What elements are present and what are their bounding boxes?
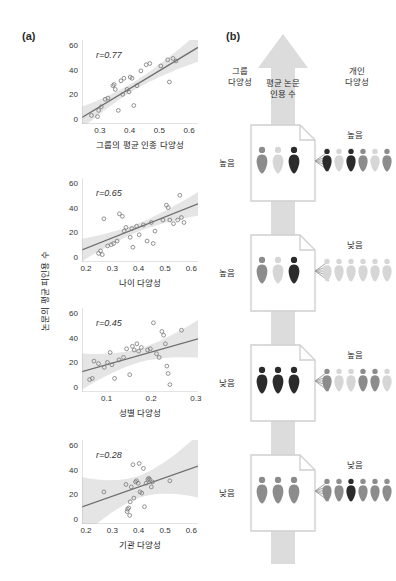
person-icon xyxy=(358,368,368,392)
y-tick-label: 20 xyxy=(69,490,78,499)
person-icon xyxy=(256,146,268,174)
figure-root: (a) 논문의 평균 피인용 수 02040600.30.40.50.6그룹의 … xyxy=(0,0,396,581)
data-point xyxy=(142,467,146,471)
y-tick-label: 60 xyxy=(69,178,78,187)
data-point xyxy=(166,372,170,376)
x-tick-label: 0.2 xyxy=(80,264,91,273)
y-tick-label: 40 xyxy=(69,65,78,74)
scatter-plot-2: 02040600.20.30.40.50.6나이 다양성r=0.65 xyxy=(52,178,198,262)
x-tick-label: 0.4 xyxy=(133,264,144,273)
person-icon xyxy=(334,368,344,392)
scatter-plot-3: 02040600.10.20.3성별 다양성r=0.45 xyxy=(52,308,198,392)
person-icon xyxy=(370,478,380,502)
correlation-annotation: r=0.45 xyxy=(96,318,122,328)
person-icon xyxy=(272,476,284,504)
data-point xyxy=(128,373,132,377)
person-icon xyxy=(382,258,392,282)
correlation-value: =0.45 xyxy=(99,318,122,328)
group-diversity-level: 낮음 xyxy=(210,486,244,498)
scatter-plot-4: 02040600.20.30.40.50.6기관 다양성r=0.28 xyxy=(52,440,198,524)
group-people xyxy=(256,476,300,504)
data-point xyxy=(100,253,104,257)
group-diversity-level: 높음 xyxy=(210,156,244,168)
x-axis-title: 성별 다양성 xyxy=(119,406,161,418)
y-tick-label: 40 xyxy=(69,465,78,474)
correlation-annotation: r=0.65 xyxy=(96,188,122,198)
data-point xyxy=(168,80,172,84)
y-tick-label: 0 xyxy=(74,515,78,524)
person-icon xyxy=(288,366,300,394)
person-icon xyxy=(334,148,344,172)
data-point xyxy=(131,463,135,467)
individual-people xyxy=(322,478,392,502)
x-axis-title: 그룹의 평균 인종 다양성 xyxy=(96,138,183,150)
plot-area: 02040600.20.30.40.50.6기관 다양성r=0.28 xyxy=(82,440,198,524)
data-point xyxy=(182,221,186,225)
person-icon xyxy=(256,366,268,394)
data-point xyxy=(168,383,172,387)
data-point xyxy=(137,233,141,237)
data-point xyxy=(148,62,152,66)
person-icon xyxy=(370,258,380,282)
data-point xyxy=(113,377,117,381)
y-tick-label: 60 xyxy=(69,40,78,49)
y-tick-label: 0 xyxy=(74,383,78,392)
person-icon xyxy=(370,148,380,172)
person-icon xyxy=(322,258,332,282)
person-icon xyxy=(288,256,300,284)
data-point xyxy=(113,88,117,92)
plot-area: 02040600.20.30.40.50.6나이 다양성r=0.65 xyxy=(82,178,198,262)
correlation-value: =0.65 xyxy=(99,188,122,198)
x-tick-label: 0.6 xyxy=(186,264,197,273)
plot-area: 02040600.30.40.50.6그룹의 평균 인종 다양성r=0.77 xyxy=(82,40,198,124)
arrow-label: 평균 논문 인용 수 xyxy=(246,78,320,101)
person-icon xyxy=(370,368,380,392)
data-point xyxy=(152,321,156,325)
x-tick-label: 0.5 xyxy=(159,264,170,273)
person-icon xyxy=(334,258,344,282)
data-point xyxy=(145,239,149,243)
person-icon xyxy=(256,476,268,504)
individual-diversity-level: 높음 xyxy=(326,348,384,360)
data-point xyxy=(116,109,120,113)
data-point xyxy=(165,364,169,368)
data-point xyxy=(125,347,129,351)
person-icon xyxy=(322,148,332,172)
data-point xyxy=(143,505,147,509)
scatter-plot-1: 02040600.30.40.50.6그룹의 평균 인종 다양성r=0.77 xyxy=(52,40,198,124)
data-point xyxy=(131,245,135,249)
person-icon xyxy=(382,368,392,392)
individual-diversity-level: 낮음 xyxy=(326,458,384,470)
data-point xyxy=(128,235,132,239)
diversity-row-3: 낮음높음 xyxy=(200,330,396,440)
person-icon xyxy=(288,476,300,504)
y-tick-label: 40 xyxy=(69,203,78,212)
data-point xyxy=(122,76,126,80)
column-header-individual-diversity: 개인 다양성 xyxy=(326,66,388,89)
y-tick-label: 40 xyxy=(69,333,78,342)
x-tick-label: 0.2 xyxy=(146,394,157,403)
person-icon xyxy=(382,148,392,172)
individual-people xyxy=(322,148,392,172)
correlation-value: =0.77 xyxy=(99,50,122,60)
individual-people xyxy=(322,258,392,282)
person-icon xyxy=(346,148,356,172)
group-people xyxy=(256,256,300,284)
data-point xyxy=(162,333,166,337)
data-point xyxy=(172,222,176,226)
individual-diversity-level: 낮음 xyxy=(326,238,384,250)
individual-diversity-level: 높음 xyxy=(326,128,384,140)
person-icon xyxy=(322,478,332,502)
panel-b-tag: (b) xyxy=(226,30,240,42)
person-icon xyxy=(272,146,284,174)
x-axis-title: 나이 다양성 xyxy=(119,276,161,288)
group-people xyxy=(256,366,300,394)
data-point xyxy=(160,330,164,334)
panel-a-tag: (a) xyxy=(22,30,35,42)
person-icon xyxy=(358,148,368,172)
y-tick-label: 20 xyxy=(69,228,78,237)
x-tick-label: 0.3 xyxy=(107,526,118,535)
x-tick-label: 0.5 xyxy=(154,126,165,135)
person-icon xyxy=(322,368,332,392)
x-tick-label: 0.6 xyxy=(184,126,195,135)
